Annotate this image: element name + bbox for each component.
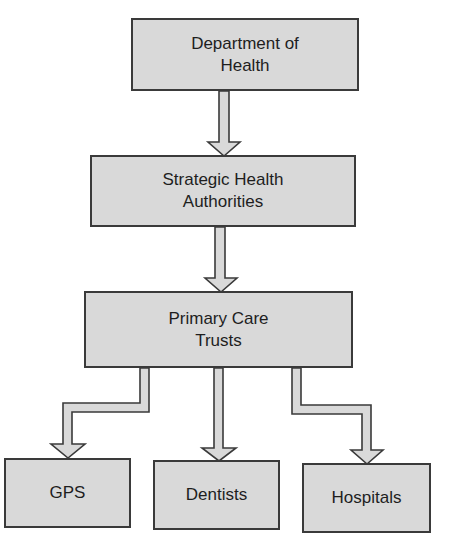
node-strategic-health-authorities: Strategic Health Authorities [90, 155, 356, 227]
node-label: Strategic Health Authorities [163, 169, 284, 213]
arrow-doh-to-sha [208, 91, 240, 156]
node-primary-care-trusts: Primary Care Trusts [84, 291, 353, 368]
org-hierarchy-diagram: Department of Health Strategic Health Au… [0, 0, 471, 541]
node-label: GPS [50, 482, 86, 504]
node-gps: GPS [4, 458, 131, 528]
arrow-pct-to-dentists [202, 368, 236, 461]
node-hospitals: Hospitals [302, 463, 431, 533]
node-department-of-health: Department of Health [131, 18, 359, 91]
arrow-sha-to-pct [205, 227, 237, 292]
arrow-pct-to-gps [51, 368, 149, 458]
arrow-pct-to-hospitals [292, 368, 383, 464]
node-label: Primary Care Trusts [168, 308, 268, 352]
node-label: Hospitals [332, 487, 402, 509]
node-dentists: Dentists [153, 460, 280, 530]
node-label: Department of Health [191, 33, 299, 77]
node-label: Dentists [186, 484, 247, 506]
